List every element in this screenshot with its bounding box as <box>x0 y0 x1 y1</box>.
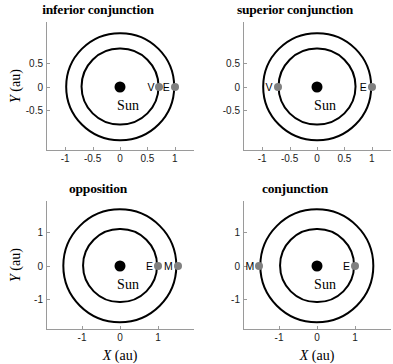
x-tick <box>355 326 356 330</box>
x-tick-label: 0.5 <box>337 153 351 164</box>
plot-area: 10-1-101SunME <box>243 201 391 330</box>
y-tick <box>46 87 50 88</box>
sun-label: Sun <box>314 98 336 114</box>
x-axis-label-var: X <box>103 348 112 363</box>
planet-label-mars: M <box>164 260 173 272</box>
y-tick-label: -0.5 <box>223 105 240 116</box>
x-tick-label: 0 <box>117 153 123 164</box>
y-tick <box>243 232 247 233</box>
y-tick <box>46 299 50 300</box>
x-tick-label: 0.5 <box>140 153 154 164</box>
x-tick <box>65 147 66 151</box>
x-tick-label: 1 <box>352 332 358 343</box>
x-axis-label-var: X <box>300 348 309 363</box>
x-tick <box>147 147 148 151</box>
y-axis-label: Y (au) <box>8 58 24 114</box>
y-tick-label: 1 <box>37 227 43 238</box>
planet-label-earth: E <box>146 260 153 272</box>
panel-title: conjunction <box>197 181 393 197</box>
y-tick <box>243 110 247 111</box>
panel-opposition: opposition10-1-101SunEMY (au)X (au) <box>0 179 196 358</box>
x-axis-label: X (au) <box>103 348 138 364</box>
x-tick-label: -1 <box>78 332 87 343</box>
planet-label-earth: E <box>360 81 367 93</box>
x-tick <box>372 147 373 151</box>
y-axis-label: Y (au) <box>8 237 24 293</box>
x-tick <box>290 147 291 151</box>
planet-marker-earth <box>368 83 376 91</box>
panel-title: inferior conjunction <box>0 2 196 18</box>
y-tick <box>243 87 247 88</box>
x-tick <box>344 147 345 151</box>
planet-label-venus: V <box>266 81 273 93</box>
planet-marker-earth <box>351 262 359 270</box>
x-tick-label: -1 <box>258 153 267 164</box>
x-axis-label-unit: (au) <box>308 348 334 363</box>
y-tick <box>46 110 50 111</box>
x-tick <box>317 147 318 151</box>
y-tick <box>46 232 50 233</box>
sun-label: Sun <box>117 277 139 293</box>
y-tick-label: 0 <box>234 81 240 92</box>
plot-area: 0.50-0.5-1-0.500.51SunVE <box>243 22 391 151</box>
planet-marker-earth <box>154 262 162 270</box>
x-tick-label: -1 <box>61 153 70 164</box>
sun-label: Sun <box>117 98 139 114</box>
x-tick-label: -1 <box>275 332 284 343</box>
y-axis-label-unit: (au) <box>8 248 23 274</box>
y-tick <box>46 63 50 64</box>
sun-marker <box>115 81 126 92</box>
y-tick-label: -0.5 <box>26 105 43 116</box>
y-tick <box>46 266 50 267</box>
y-axis-label-var: Y <box>8 274 23 282</box>
y-tick-label: -1 <box>34 293 43 304</box>
y-axis-label-var: Y <box>8 95 23 103</box>
planet-marker-mars <box>255 262 263 270</box>
x-tick <box>262 147 263 151</box>
y-tick <box>243 299 247 300</box>
y-tick-label: 0 <box>37 81 43 92</box>
x-tick <box>120 326 121 330</box>
panel-conjunction: conjunction10-1-101SunMEX (au) <box>197 179 393 358</box>
x-tick-label: 1 <box>369 153 375 164</box>
y-tick-label: 0 <box>37 260 43 271</box>
planet-label-mars: M <box>246 260 255 272</box>
panel-superior-conjunction: superior conjunction0.50-0.5-1-0.500.51S… <box>197 0 393 179</box>
x-axis-label-unit: (au) <box>111 348 137 363</box>
panel-inferior-conjunction: inferior conjunction0.50-0.5-1-0.500.51S… <box>0 0 196 179</box>
y-tick-label: 0.5 <box>226 57 240 68</box>
x-tick <box>279 326 280 330</box>
planet-marker-earth <box>171 83 179 91</box>
x-tick-label: -0.5 <box>281 153 298 164</box>
sun-label: Sun <box>314 277 336 293</box>
x-tick-label: 1 <box>172 153 178 164</box>
planet-marker-mars <box>174 262 182 270</box>
x-axis-label: X (au) <box>300 348 335 364</box>
x-tick <box>93 147 94 151</box>
panel-title: opposition <box>0 181 196 197</box>
y-tick <box>243 63 247 64</box>
x-tick <box>82 326 83 330</box>
x-tick-label: 0 <box>117 332 123 343</box>
y-axis-label-unit: (au) <box>8 69 23 95</box>
sun-marker <box>115 260 126 271</box>
planet-label-earth: E <box>343 260 350 272</box>
y-tick-label: -1 <box>231 293 240 304</box>
x-tick <box>158 326 159 330</box>
x-tick <box>175 147 176 151</box>
sun-marker <box>312 81 323 92</box>
planet-label-venus: V <box>147 81 154 93</box>
x-tick <box>120 147 121 151</box>
x-tick <box>317 326 318 330</box>
x-tick-label: 0 <box>314 332 320 343</box>
x-tick-label: 0 <box>314 153 320 164</box>
planet-marker-venus <box>274 83 282 91</box>
x-tick-label: -0.5 <box>84 153 101 164</box>
y-tick-label: 0 <box>234 260 240 271</box>
sun-marker <box>312 260 323 271</box>
panel-title: superior conjunction <box>197 2 393 18</box>
plot-area: 10-1-101SunEM <box>46 201 194 330</box>
x-tick-label: 1 <box>155 332 161 343</box>
planet-label-earth: E <box>163 81 170 93</box>
